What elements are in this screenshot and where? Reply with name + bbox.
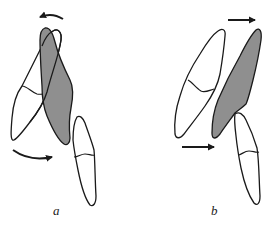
panel-label-a: a — [53, 203, 60, 219]
rotation-arrow-top-icon — [40, 15, 63, 19]
rotation-arrow-bottom-icon — [13, 150, 52, 158]
panel-b — [175, 20, 262, 204]
panel-label-b: b — [211, 203, 218, 219]
panel-a — [11, 15, 96, 206]
upper-tooth-shaded — [40, 28, 73, 145]
tooth-movement-figure: a b — [0, 0, 270, 227]
lower-tooth-a — [73, 116, 96, 205]
lower-tooth-b — [235, 113, 260, 205]
